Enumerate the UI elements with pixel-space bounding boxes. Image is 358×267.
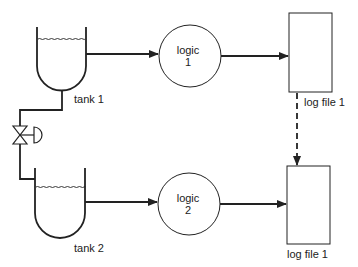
logic-1-number: 1 bbox=[185, 56, 191, 68]
liquid-level-2 bbox=[36, 187, 85, 188]
tank-1 bbox=[37, 27, 86, 91]
liquid-level-1 bbox=[38, 39, 85, 40]
process-diagram: tank 1 tank 2 logic 1 logic 2 log file 1… bbox=[0, 0, 358, 267]
tank-2-label: tank 2 bbox=[74, 242, 104, 254]
valve-icon bbox=[13, 126, 42, 144]
log-file-bottom bbox=[287, 166, 330, 244]
logic-1-node: logic 1 bbox=[159, 25, 221, 87]
log-file-bottom-label: log file 1 bbox=[287, 248, 328, 260]
pipe-valve-tank2 bbox=[20, 144, 35, 179]
tank-2 bbox=[35, 168, 85, 238]
logic-2-label: logic bbox=[177, 192, 200, 204]
log-file-top bbox=[289, 13, 332, 92]
pipe-tank1-valve bbox=[20, 90, 62, 126]
log-file-top-label: log file 1 bbox=[304, 96, 345, 108]
tank-1-label: tank 1 bbox=[74, 93, 104, 105]
logic-2-number: 2 bbox=[185, 204, 191, 216]
logic-1-label: logic bbox=[177, 44, 200, 56]
logic-2-node: logic 2 bbox=[158, 173, 220, 235]
